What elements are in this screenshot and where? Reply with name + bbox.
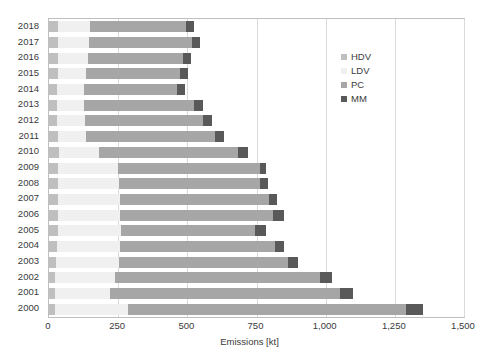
bar-row [49,210,284,221]
y-axis-labels: 2018201720162015201420132012201120102009… [0,18,44,316]
bar-segment-pc [86,68,180,79]
x-tick-label-0: 0 [45,320,50,331]
bar-row [49,53,191,64]
bar-segment-hdv [49,68,58,79]
y-tick-label-2018: 2018 [18,21,39,31]
x-axis-labels: 02505007501,0001,2501,500 [0,320,489,334]
legend-swatch-icon-hdv [341,54,347,60]
bar-segment-mm [194,100,203,111]
bar-segment-hdv [49,131,58,142]
bar-segment-mm [269,194,277,205]
bar-row [49,288,353,299]
chart-legend: HDVLDVPCMM [341,50,401,106]
bar-row [49,147,248,158]
bar-segment-hdv [49,100,57,111]
bar-segment-pc [85,115,203,126]
chart-container: 2018201720162015201420132012201120102009… [0,0,489,359]
bar-segment-hdv [49,53,58,64]
bar-segment-mm [215,131,225,142]
bar-segment-hdv [49,37,58,48]
bar-row [49,37,200,48]
bar-segment-mm [260,163,266,174]
y-tick-label-2010: 2010 [18,146,39,156]
bar-segment-mm [275,241,284,252]
y-tick-label-2001: 2001 [18,287,39,297]
y-tick-label-2003: 2003 [18,256,39,266]
bar-segment-pc [110,288,340,299]
gridline-1500 [464,19,465,317]
legend-item-mm[interactable]: MM [341,92,401,105]
bar-segment-ldv [55,304,128,315]
bar-segment-ldv [57,100,84,111]
legend-item-pc[interactable]: PC [341,78,401,91]
legend-swatch-icon-ldv [341,68,347,74]
y-tick-label-2009: 2009 [18,162,39,172]
bar-row [49,115,212,126]
bar-segment-pc [115,272,321,283]
legend-item-hdv[interactable]: HDV [341,50,401,63]
bar-segment-hdv [49,163,58,174]
y-tick-label-2004: 2004 [18,240,39,250]
bar-row [49,225,266,236]
bar-segment-ldv [58,53,88,64]
y-tick-label-2007: 2007 [18,193,39,203]
bar-segment-mm [406,304,423,315]
bar-segment-ldv [58,210,120,221]
bar-segment-ldv [58,21,90,32]
y-tick-label-2012: 2012 [18,115,39,125]
x-axis-title-text: Emissions [kt] [220,336,279,347]
y-tick-label-2016: 2016 [18,52,39,62]
legend-label-ldv: LDV [351,66,369,76]
legend-item-ldv[interactable]: LDV [341,64,401,77]
y-tick-label-2008: 2008 [18,178,39,188]
y-tick-label-2011: 2011 [19,131,39,141]
bar-segment-pc [121,225,255,236]
bar-segment-pc [120,210,272,221]
bar-segment-hdv [49,241,57,252]
y-tick-label-2017: 2017 [18,37,39,47]
x-tick-label-250: 250 [109,320,125,331]
bar-segment-hdv [49,115,57,126]
bar-segment-ldv [58,68,86,79]
bar-segment-pc [118,163,260,174]
bar-segment-ldv [58,225,121,236]
bar-segment-pc [120,194,269,205]
bar-segment-mm [238,147,249,158]
bar-segment-mm [183,53,191,64]
bar-segment-ldv [58,163,117,174]
bar-segment-mm [177,84,185,95]
y-tick-label-2005: 2005 [18,225,39,235]
bar-segment-hdv [49,194,58,205]
y-tick-label-2002: 2002 [18,272,39,282]
y-tick-label-2013: 2013 [18,99,39,109]
bar-segment-pc [88,53,184,64]
bar-row [49,194,277,205]
x-axis-title: Emissions [kt] [0,336,489,347]
legend-label-mm: MM [351,94,367,104]
bar-segment-mm [288,257,298,268]
bar-segment-mm [203,115,213,126]
bar-segment-mm [192,37,200,48]
bar-segment-mm [273,210,285,221]
x-tick-label-500: 500 [178,320,194,331]
bar-row [49,84,185,95]
bars-layer [49,19,464,317]
bar-segment-mm [255,225,266,236]
bar-segment-hdv [49,257,56,268]
x-tick-label-1250: 1,250 [382,320,406,331]
bar-segment-ldv [58,178,119,189]
bar-segment-hdv [49,225,58,236]
bar-segment-ldv [57,241,120,252]
bar-row [49,257,298,268]
bar-segment-mm [320,272,332,283]
bar-segment-ldv [58,37,89,48]
bar-row [49,304,423,315]
legend-label-hdv: HDV [351,52,371,62]
legend-swatch-icon-pc [341,82,347,88]
bar-segment-ldv [55,272,114,283]
bar-segment-ldv [56,257,119,268]
bar-segment-pc [86,131,214,142]
legend-label-pc: PC [351,80,364,90]
bar-segment-hdv [49,210,58,221]
bar-segment-pc [128,304,405,315]
